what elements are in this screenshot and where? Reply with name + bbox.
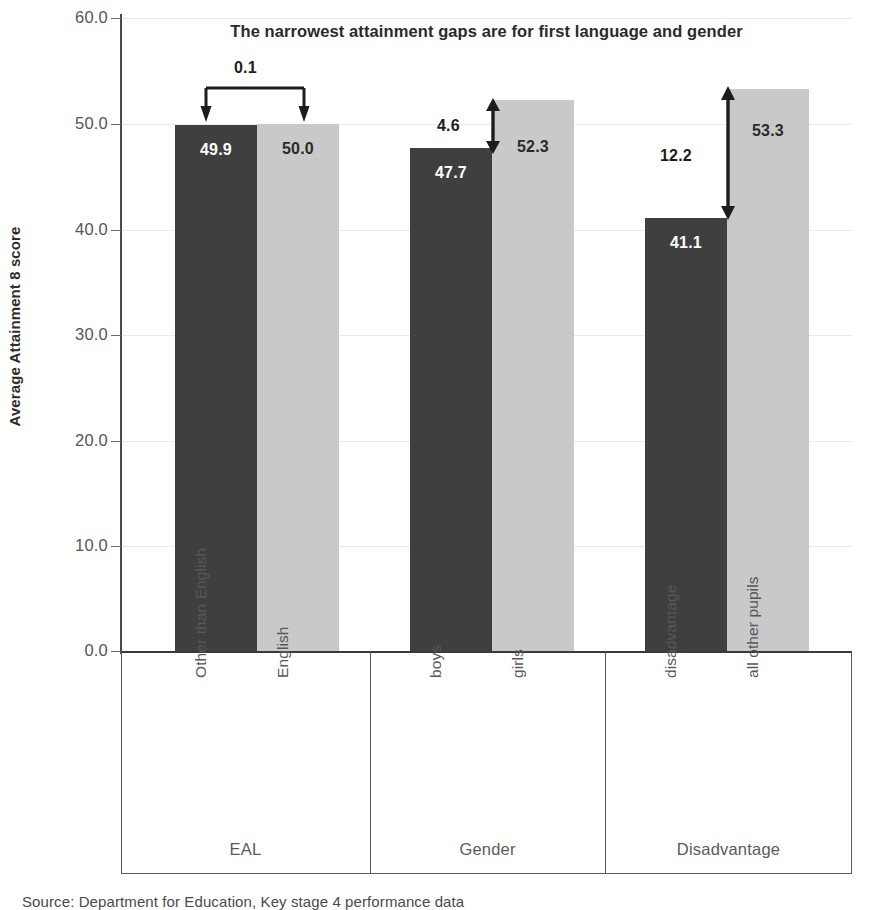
bar-gender-girls: 52.3: [492, 100, 574, 652]
bar-disadvantage-all-other-pupils: 53.3: [727, 89, 809, 652]
y-tick-label-30: 30.0: [46, 325, 108, 344]
y-tick-label-10: 10.0: [46, 536, 108, 555]
bar-value-gender-girls: 52.3: [492, 138, 574, 156]
category-label-all-other-pupils: all other pupils: [744, 576, 762, 678]
group-label-eal: EAL: [121, 840, 370, 859]
y-tick-label-40: 40.0: [46, 220, 108, 239]
y-axis-title: Average Attainment 8 score: [6, 27, 23, 627]
gap-bracket-eal-icon: [200, 82, 310, 126]
bar-eal-english: 50.0: [257, 124, 339, 652]
gap-arrow-gender-icon: [483, 98, 503, 154]
source-note: Source: Department for Education, Key st…: [22, 893, 464, 910]
y-axis-line: [120, 14, 122, 654]
bar-value-disadvantage-all-other-pupils: 53.3: [727, 122, 809, 140]
bar-disadvantage-disadvantaged: 41.1: [645, 218, 727, 652]
group-label-disadvantage: Disadvantage: [605, 840, 852, 859]
gap-label-disadvantage: 12.2: [660, 147, 692, 165]
category-label-english: English: [274, 626, 292, 678]
bar-value-gender-boys: 47.7: [410, 164, 492, 182]
y-tick-mark-0: [111, 651, 121, 652]
category-label-other-than-english: Other than English: [192, 548, 210, 678]
y-tick-label-0: 0.0: [46, 641, 108, 660]
bar-value-disadvantage-disadvantaged: 41.1: [645, 234, 727, 252]
y-tick-mark-20: [111, 441, 121, 442]
y-tick-label-50: 50.0: [46, 114, 108, 133]
bar-value-eal-other-than-english: 49.9: [175, 141, 257, 159]
category-label-boys: boys: [427, 645, 445, 678]
bar-gender-boys: 47.7: [410, 148, 492, 652]
y-tick-mark-60: [111, 18, 121, 19]
category-label-disadvantage: disadvantage: [662, 585, 680, 678]
y-tick-label-20: 20.0: [46, 431, 108, 450]
gridline-60: [121, 18, 852, 19]
y-tick-mark-40: [111, 230, 121, 231]
bar-value-eal-english: 50.0: [257, 140, 339, 158]
group-label-gender: Gender: [370, 840, 605, 859]
y-tick-mark-10: [111, 546, 121, 547]
y-tick-label-60: 60.0: [46, 8, 108, 27]
y-tick-mark-30: [111, 335, 121, 336]
category-label-girls: girls: [509, 649, 527, 678]
gap-label-eal: 0.1: [234, 59, 257, 77]
y-tick-mark-50: [111, 124, 121, 125]
bar-eal-other-than-english: 49.9: [175, 125, 257, 652]
gap-label-gender: 4.6: [437, 117, 460, 135]
chart-title: The narrowest attainment gaps are for fi…: [121, 22, 852, 41]
gap-arrow-disadvantage-icon: [718, 86, 738, 220]
